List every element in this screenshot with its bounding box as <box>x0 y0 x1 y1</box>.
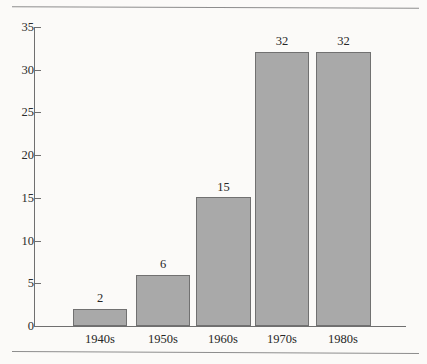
x-axis-category-label-1980s: 1980s <box>309 332 377 347</box>
bar-1980s <box>316 52 371 326</box>
bar-1960s <box>196 197 251 326</box>
bar-value-1970s: 32 <box>255 34 309 49</box>
y-axis-tick-6 <box>34 70 41 71</box>
bar-1970s <box>255 52 309 326</box>
bar-value-1950s: 6 <box>136 257 190 272</box>
bar-chart-plot-area: 0 5 10 15 20 25 30 35 2 <box>0 0 427 364</box>
x-axis-category-label-1960s: 1960s <box>189 332 257 347</box>
y-axis-tick-label-3: 15 <box>8 190 34 205</box>
y-axis-tick-1 <box>34 283 41 284</box>
bar-value-1980s: 32 <box>316 34 371 49</box>
y-axis-tick-5 <box>34 112 41 113</box>
bar-value-1960s: 15 <box>196 180 251 195</box>
y-axis-line <box>34 27 35 327</box>
x-axis-category-label-1950s: 1950s <box>129 332 197 347</box>
bar-1940s <box>73 309 127 326</box>
y-axis-tick-4 <box>34 155 41 156</box>
y-axis-tick-2 <box>34 241 41 242</box>
x-axis-category-label-1940s: 1940s <box>66 332 134 347</box>
y-axis-tick-label-4: 20 <box>8 148 34 163</box>
bar-value-1940s: 2 <box>73 291 127 306</box>
chart-page: 0 5 10 15 20 25 30 35 2 <box>0 0 427 364</box>
y-axis-tick-label-0: 0 <box>8 319 34 334</box>
y-axis-tick-label-6: 30 <box>8 62 34 77</box>
y-axis-tick-7 <box>34 27 41 28</box>
y-axis-tick-0 <box>34 326 41 327</box>
y-axis-tick-3 <box>34 198 41 199</box>
x-axis-category-label-1970s: 1970s <box>248 332 316 347</box>
bar-1950s <box>136 275 190 326</box>
y-axis-tick-label-7: 35 <box>8 20 34 35</box>
y-axis-tick-label-5: 25 <box>8 105 34 120</box>
y-axis-tick-label-2: 10 <box>8 233 34 248</box>
y-axis-tick-label-1: 5 <box>8 276 34 291</box>
x-axis-line <box>34 326 406 327</box>
